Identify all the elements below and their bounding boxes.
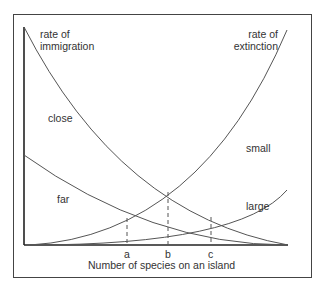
label-far: far — [57, 193, 69, 205]
curve-immigration-close — [24, 27, 288, 245]
extinction-axis-label: rate of extinction — [234, 28, 278, 52]
curve-extinction-small — [30, 30, 287, 245]
extinction-label-line2: extinction — [234, 40, 278, 52]
label-large: large — [246, 200, 269, 212]
label-close: close — [48, 112, 73, 124]
label-small: small — [246, 142, 271, 154]
immigration-axis-label: rate of immigration — [40, 28, 94, 52]
extinction-label-line1: rate of — [234, 28, 278, 40]
x-axis-label: Number of species on an island — [88, 259, 235, 271]
immigration-label-line1: rate of — [40, 28, 94, 40]
immigration-label-line2: immigration — [40, 40, 94, 52]
